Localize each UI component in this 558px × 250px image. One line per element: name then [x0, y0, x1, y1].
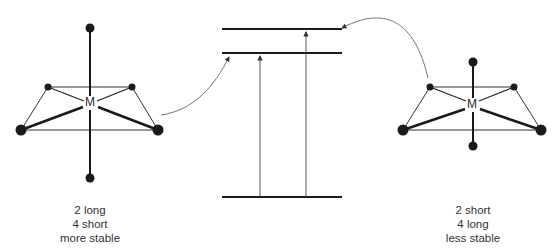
caption-line: less stable: [413, 231, 533, 245]
energy-levels: [222, 29, 342, 197]
atom-front-right: [536, 125, 547, 136]
atom-back-right: [511, 84, 518, 91]
caption-left: 2 long 4 short more stable: [30, 203, 150, 245]
atom-axial-bottom: [469, 142, 478, 151]
metal-label-left: M: [84, 96, 96, 109]
curve-arrow-left: [161, 57, 229, 115]
atom-back-right: [129, 84, 136, 91]
caption-line: more stable: [30, 231, 150, 245]
atom-front-left: [16, 125, 27, 136]
atom-axial-top: [86, 24, 95, 33]
caption-right: 2 short 4 long less stable: [413, 203, 533, 245]
caption-line: 4 short: [30, 217, 150, 231]
caption-line: 2 short: [413, 203, 533, 217]
atom-axial-top: [469, 58, 478, 67]
atom-axial-bottom: [86, 174, 95, 183]
caption-line: 4 long: [413, 217, 533, 231]
curve-arrow-right: [342, 18, 428, 78]
metal-label-right: M: [466, 98, 478, 111]
atom-back-left: [427, 84, 434, 91]
caption-line: 2 long: [30, 203, 150, 217]
atom-back-left: [45, 84, 52, 91]
atom-front-right: [153, 125, 164, 136]
atom-front-left: [398, 125, 409, 136]
